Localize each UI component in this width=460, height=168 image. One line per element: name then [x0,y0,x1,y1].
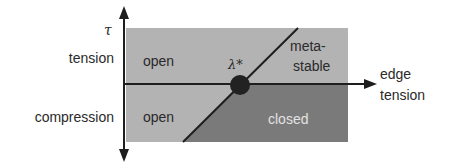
compression-label: compression [35,109,114,125]
y-axis-down-arrow-icon [119,149,129,162]
region-label-open-top: open [143,53,174,69]
region-label-open-bottom: open [143,109,174,125]
region-label-metastable-1: meta- [290,38,326,54]
phase-diagram [0,0,460,168]
region-label-closed: closed [268,111,308,127]
x-axis-label-1: edge [380,66,411,82]
tension-label: tension [69,50,114,66]
critical-point-label: λ* [228,57,243,73]
x-axis-arrow-icon [364,79,377,89]
y-axis-up-arrow-icon [119,6,129,19]
critical-point-marker [230,75,250,95]
y-axis-symbol: τ [104,22,112,38]
region-label-metastable-2: stable [293,58,330,74]
x-axis-label-2: tension [380,87,425,103]
